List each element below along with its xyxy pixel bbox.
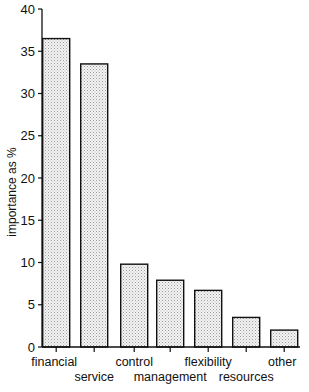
bar-other [271,330,298,347]
bar-service [81,64,108,347]
x-axis: financialservicecontrolmanagementflexibi… [31,347,300,384]
bar-management [157,280,184,347]
x-category-label: resources [219,370,274,384]
y-tick-label: 20 [21,171,35,186]
x-category-label: flexibility [185,355,233,369]
y-tick-label: 40 [21,2,35,17]
x-category-label: financial [31,355,77,369]
y-axis: 0510152025303540 [21,2,42,355]
x-category-label: other [268,355,297,369]
x-category-label: control [115,355,153,369]
y-tick-label: 25 [21,128,35,143]
bars [43,39,298,347]
x-category-label: service [74,370,114,384]
y-tick-label: 30 [21,86,35,101]
y-tick-label: 0 [28,340,35,355]
y-tick-label: 35 [21,44,35,59]
y-tick-label: 15 [21,213,35,228]
bar-financial [43,39,70,347]
bar-resources [233,317,260,347]
y-tick-label: 5 [28,297,35,312]
x-category-label: management [134,370,207,384]
y-axis-label: importance as % [5,147,19,237]
bar-chart: 0510152025303540 financialservicecontrol… [0,0,309,392]
bar-flexibility [195,290,222,347]
bar-control [121,264,148,347]
y-tick-label: 10 [21,255,35,270]
